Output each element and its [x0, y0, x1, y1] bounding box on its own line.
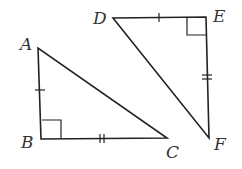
vertex-label-d: D — [93, 10, 107, 27]
vertex-label-c: C — [166, 144, 179, 161]
diagram-canvas: A B C D E F — [0, 0, 242, 169]
triangles-figure — [0, 0, 242, 169]
vertex-label-b: B — [21, 134, 34, 151]
right-angle-marker-e — [187, 17, 206, 35]
vertex-label-f: F — [214, 136, 226, 153]
right-angle-marker-b — [42, 120, 61, 138]
vertex-label-a: A — [20, 36, 32, 53]
vertex-label-e: E — [213, 8, 225, 25]
